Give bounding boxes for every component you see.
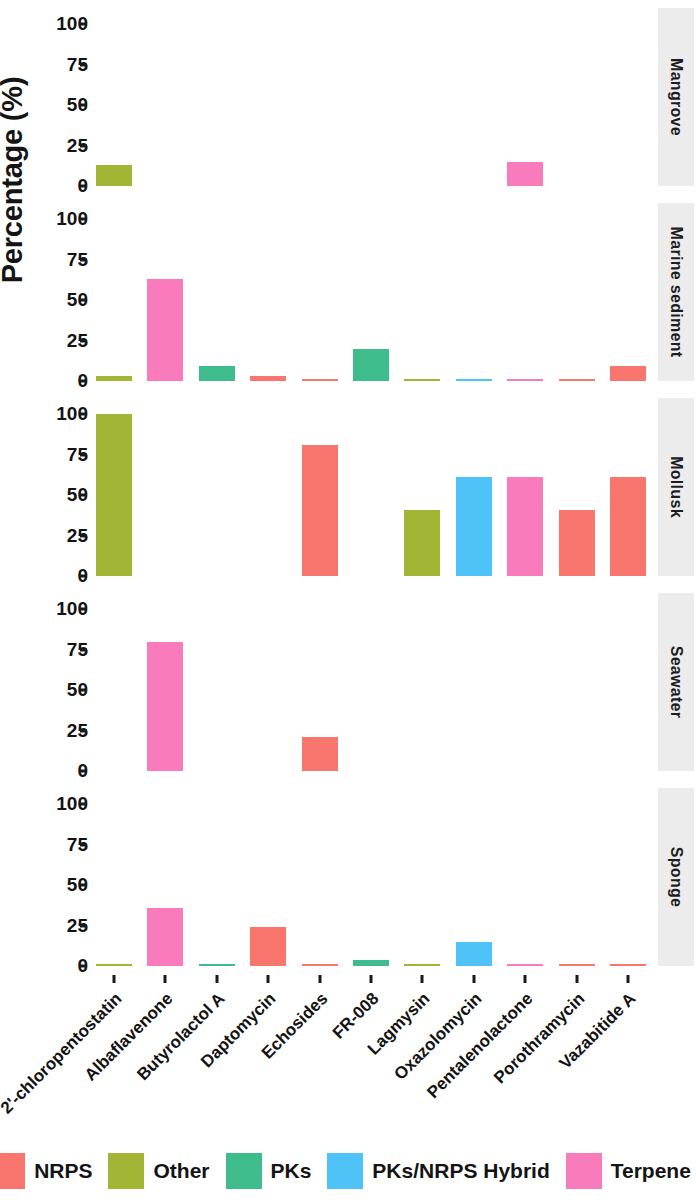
bar xyxy=(250,376,286,381)
y-tick-mark xyxy=(80,803,87,806)
facet-strip-label: Seawater xyxy=(658,593,694,771)
y-tick-mark xyxy=(80,843,87,846)
y-tick-mark xyxy=(80,63,87,66)
x-tick-mark xyxy=(524,975,527,983)
bar xyxy=(302,737,338,771)
facet-row: 0255075100Sponge xyxy=(0,780,696,975)
bar xyxy=(353,960,389,966)
bar xyxy=(302,964,338,966)
y-tick-label: 75 xyxy=(14,54,88,76)
y-tick-label: 0 xyxy=(14,760,88,782)
y-tick-label: 25 xyxy=(14,915,88,937)
y-tick-label: 50 xyxy=(14,94,88,116)
facet-panel xyxy=(88,788,654,966)
facet-panel xyxy=(88,8,654,186)
bar xyxy=(404,510,440,576)
bar-group xyxy=(88,203,654,381)
bar xyxy=(507,379,543,381)
facet-strip-label: Marine sediment xyxy=(658,203,694,381)
y-tick-mark xyxy=(80,648,87,651)
y-tick-mark xyxy=(80,924,87,927)
facet-row: 0255075100Marine sediment xyxy=(0,195,696,390)
y-tick-label: 50 xyxy=(14,484,88,506)
y-tick-mark xyxy=(80,453,87,456)
y-tick-label: 50 xyxy=(14,289,88,311)
facet-strip-text: Mangrove xyxy=(667,58,685,136)
y-tick-label: 0 xyxy=(14,955,88,977)
bar-group xyxy=(88,8,654,186)
y-tick-mark xyxy=(80,534,87,537)
legend-label: NRPS xyxy=(34,1159,92,1183)
x-tick-mark xyxy=(421,975,424,983)
bar xyxy=(147,279,183,381)
legend-color-swatch xyxy=(327,1153,363,1189)
y-tick-label: 25 xyxy=(14,720,88,742)
y-tick-mark xyxy=(80,104,87,107)
x-tick-mark xyxy=(112,975,115,983)
x-tick-mark xyxy=(627,975,630,983)
y-tick-label: 0 xyxy=(14,370,88,392)
bar xyxy=(559,964,595,966)
bar-group xyxy=(88,593,654,771)
y-tick-label: 100 xyxy=(14,208,88,230)
y-tick-mark xyxy=(80,413,87,416)
y-axis: 0255075100 xyxy=(0,8,88,186)
y-tick-mark xyxy=(80,23,87,26)
bar xyxy=(456,379,492,381)
bar xyxy=(610,366,646,381)
chart-figure: Percentage (%) 0255075100Mangrove0255075… xyxy=(0,0,696,1203)
x-tick-mark xyxy=(472,975,475,983)
bar xyxy=(507,477,543,576)
facet-panel xyxy=(88,203,654,381)
bar xyxy=(302,445,338,576)
facet-strip-text: Mollusk xyxy=(667,456,685,518)
bar xyxy=(96,376,132,381)
bar xyxy=(456,477,492,576)
bar xyxy=(96,414,132,576)
bar xyxy=(302,379,338,381)
legend-label: PKs xyxy=(271,1159,312,1183)
bar-group xyxy=(88,398,654,576)
legend-color-swatch xyxy=(566,1153,602,1189)
y-tick-mark xyxy=(80,299,87,302)
y-tick-mark xyxy=(80,729,87,732)
y-tick-mark xyxy=(80,575,87,578)
y-tick-mark xyxy=(80,339,87,342)
bar xyxy=(404,379,440,381)
bar xyxy=(559,510,595,576)
legend-item: Other xyxy=(108,1153,225,1189)
y-tick-label: 50 xyxy=(14,874,88,896)
facet-strip-text: Sponge xyxy=(667,847,685,907)
y-tick-label: 100 xyxy=(14,13,88,35)
plot-area: 0255075100Mangrove0255075100Marine sedim… xyxy=(0,0,696,975)
legend-item: Terpene xyxy=(566,1153,696,1189)
y-axis: 0255075100 xyxy=(0,398,88,576)
x-tick-mark xyxy=(318,975,321,983)
y-tick-label: 25 xyxy=(14,330,88,352)
x-tick-mark xyxy=(267,975,270,983)
y-tick-mark xyxy=(80,965,87,968)
facet-strip-text: Seawater xyxy=(667,646,685,719)
facet-strip-label: Mangrove xyxy=(658,8,694,186)
y-tick-mark xyxy=(80,144,87,147)
y-tick-mark xyxy=(80,770,87,773)
y-tick-label: 100 xyxy=(14,598,88,620)
bar xyxy=(199,366,235,381)
bar xyxy=(507,162,543,186)
legend-color-swatch xyxy=(108,1153,144,1189)
facet-strip-label: Sponge xyxy=(658,788,694,966)
y-tick-label: 25 xyxy=(14,525,88,547)
bar xyxy=(610,964,646,966)
y-tick-label: 75 xyxy=(14,834,88,856)
y-tick-mark xyxy=(80,608,87,611)
y-tick-label: 100 xyxy=(14,793,88,815)
bar xyxy=(96,165,132,186)
x-tick-label: Porothramycin xyxy=(490,989,589,1088)
x-axis: 2'-chloropentostatinAlbaflavenoneButyrol… xyxy=(88,975,654,1095)
bar-group xyxy=(88,788,654,966)
y-tick-label: 75 xyxy=(14,444,88,466)
bar xyxy=(610,477,646,576)
x-tick-mark xyxy=(164,975,167,983)
facet-strip-text: Marine sediment xyxy=(667,227,685,358)
y-tick-mark xyxy=(80,884,87,887)
